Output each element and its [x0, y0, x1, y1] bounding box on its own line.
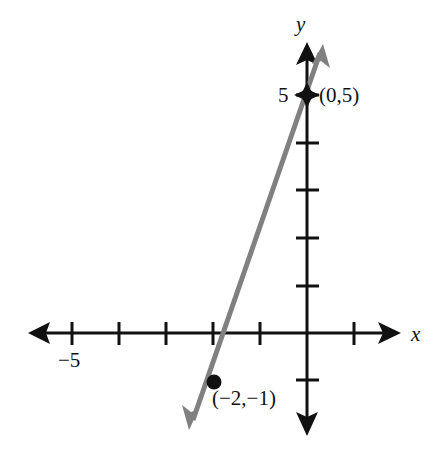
- point-label-neg2-neg1: (−2,−1): [212, 388, 276, 409]
- point-marker-0-5: [294, 82, 320, 108]
- coordinate-plane-figure: y x 5 −5 (0,5) (−2,−1): [0, 0, 438, 461]
- y-axis-label: y: [296, 14, 305, 35]
- x-tick-label-neg5: −5: [58, 350, 80, 371]
- point-label-0-5: (0,5): [319, 85, 359, 106]
- y-tick-label-5: 5: [278, 85, 289, 106]
- x-axis-label: x: [411, 324, 420, 345]
